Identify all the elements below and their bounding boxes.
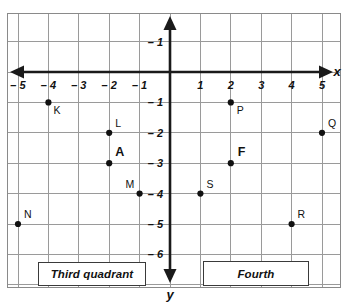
point-label-f: F [238,145,246,159]
y-axis-ticks: – 1– 1– 2– 3– 4– 5– 6 [148,36,164,261]
plot-point: P [228,99,244,116]
x-tick-label: – 4 [41,79,56,91]
x-tick-label: 3 [258,79,264,91]
point-label-l: L [115,117,121,129]
x-tick-label: – 3 [71,79,86,91]
x-tick-label: 1 [197,79,203,91]
point-label-a: A [115,145,124,159]
point-label-n: N [24,208,32,220]
x-tick-label: – 2 [102,79,117,91]
x-axis-arrow-left [10,66,24,79]
point-marker-l [106,130,112,136]
callout-third-quadrant: Third quadrant [38,262,146,286]
point-label-m: M [126,178,135,190]
coordinate-plane-figure: x y – 5– 4– 3– 2– 112345 – 1– 1– 2– 3– 4… [0,0,350,306]
y-axis-arrow-down [164,269,177,283]
point-marker-s [197,191,203,197]
point-marker-p [228,99,234,105]
point-label-k: K [53,104,60,116]
y-axis-label: y [165,287,174,302]
callout-fourth-quadrant: Fourth [203,261,309,286]
x-tick-label: 5 [319,79,326,91]
y-tick-label: – 1 [148,36,163,48]
point-label-q: Q [328,117,336,129]
y-tick-label: – 5 [148,218,164,230]
point-marker-f [228,160,234,166]
x-tick-label: – 1 [132,79,147,91]
x-axis-ticks: – 5– 4– 3– 2– 112345 [10,79,326,91]
point-marker-n [15,221,21,227]
y-tick-label: – 3 [148,157,163,169]
y-tick-label: – 4 [148,188,163,200]
callout-third-quadrant-text: Third quadrant [51,268,134,280]
point-marker-r [289,221,295,227]
point-marker-k [45,99,51,105]
x-tick-label: – 5 [10,79,26,91]
callout-fourth-quadrant-text: Fourth [237,268,274,280]
y-axis: y [164,16,177,302]
point-label-s: S [206,178,213,190]
grid-lines [8,14,341,288]
y-tick-label: – 1 [148,96,163,108]
x-axis-arrow-right [319,66,333,79]
x-axis-label: x [332,64,341,79]
y-tick-label: – 6 [148,248,164,260]
point-label-r: R [298,208,306,220]
grid-border [8,14,341,288]
point-marker-q [319,130,325,136]
plot-point: K [45,99,60,116]
point-marker-m [137,191,143,197]
y-tick-label: – 2 [148,127,163,139]
point-label-p: P [237,104,244,116]
point-marker-a [106,160,112,166]
x-tick-label: 2 [227,79,234,91]
x-tick-label: 4 [288,79,295,91]
y-axis-arrow-up [164,16,177,30]
